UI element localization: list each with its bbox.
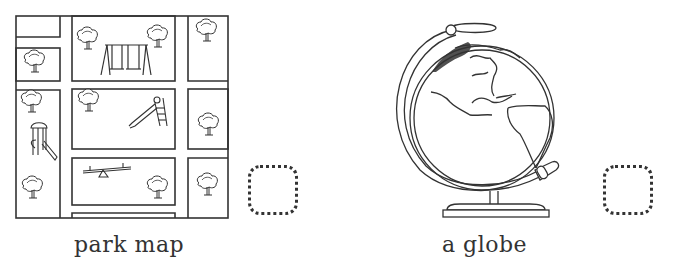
- label-park-map: park map: [74, 232, 184, 257]
- globe-illustration: [380, 0, 580, 230]
- park-map-illustration: [0, 0, 240, 230]
- answer-box-globe[interactable]: [603, 165, 653, 215]
- park-map-drawing: [0, 0, 240, 230]
- answer-box-park-map[interactable]: [248, 165, 298, 215]
- globe-drawing: [380, 0, 580, 230]
- label-globe: a globe: [442, 232, 527, 257]
